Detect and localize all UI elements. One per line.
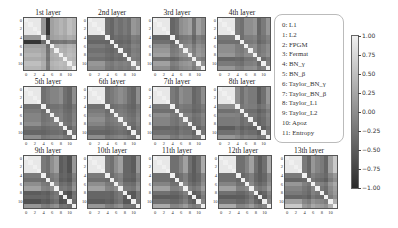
panel-title: 9th layer	[18, 147, 78, 155]
heatmap	[24, 87, 76, 139]
y-tick-label: 10	[82, 61, 86, 66]
colorbar-tick	[358, 188, 361, 189]
y-tick-label: 10	[18, 61, 22, 66]
heatmap-panel: 5th layer00224466881010	[18, 78, 78, 150]
colorbar-tick	[358, 169, 361, 170]
heatmap-panel: 12th layer00224466881010	[213, 147, 273, 219]
x-tick-label: 8	[186, 210, 194, 215]
panel-title: 5th layer	[18, 78, 78, 86]
legend-item: 2: FPGM	[282, 41, 308, 49]
y-tick-label: 10	[82, 130, 86, 135]
y-tick-label: 0	[147, 156, 151, 161]
legend-item: 6: Taylor_BN_γ	[282, 80, 326, 88]
x-tick-label: 0	[22, 210, 30, 215]
x-tick-label: 4	[301, 210, 309, 215]
y-tick-label: 4	[279, 173, 283, 178]
y-tick-label: 4	[82, 35, 86, 40]
heatmap	[88, 156, 140, 208]
x-tick-label: 2	[95, 210, 103, 215]
legend-item: 3: Fermat	[282, 50, 308, 58]
x-tick-label: 2	[226, 210, 234, 215]
heatmap-panel: 8th layer00224466881010	[212, 78, 272, 150]
y-tick-label: 6	[279, 182, 283, 187]
heatmap	[218, 87, 270, 139]
y-tick-label: 6	[212, 113, 216, 118]
colorbar-tick-label: 0.50	[362, 71, 375, 77]
y-tick-label: 2	[212, 95, 216, 100]
y-tick-label: 0	[18, 87, 22, 92]
legend-box: 0: L11: L22: FPGM3: Fermat4: BN_γ5: BN_β…	[274, 14, 344, 143]
y-tick-label: 4	[147, 35, 151, 40]
y-tick-label: 0	[212, 18, 216, 23]
y-tick-label: 10	[147, 61, 151, 66]
panel-title: 3rd layer	[147, 9, 207, 17]
colorbar-tick-label: −1.00	[362, 185, 380, 191]
colorbar-tick-label: 0.25	[362, 90, 375, 96]
legend-item: 9: Taylor_L2	[282, 109, 317, 117]
panel-title: 12th layer	[213, 147, 273, 155]
x-tick-label: 10	[66, 210, 74, 215]
y-tick-label: 8	[279, 190, 283, 195]
y-tick-label: 2	[18, 95, 22, 100]
panel-title: 6th layer	[82, 78, 142, 86]
y-tick-label: 10	[213, 199, 217, 204]
x-tick-label: 8	[121, 210, 129, 215]
y-tick-label: 2	[279, 164, 283, 169]
y-tick-label: 0	[147, 18, 151, 23]
x-tick-label: 10	[66, 141, 74, 146]
x-tick-label: 0	[217, 210, 225, 215]
y-tick-label: 2	[82, 164, 86, 169]
heatmap-panel: 6th layer00224466881010	[82, 78, 142, 150]
y-tick-label: 4	[212, 35, 216, 40]
legend-item: 5: BN_β	[282, 70, 305, 78]
x-tick-label: 4	[169, 210, 177, 215]
y-tick-label: 4	[213, 173, 217, 178]
y-tick-label: 0	[147, 87, 151, 92]
y-tick-label: 4	[18, 173, 22, 178]
heatmap	[88, 18, 140, 70]
heatmap	[24, 156, 76, 208]
y-tick-label: 6	[147, 113, 151, 118]
y-tick-label: 6	[18, 44, 22, 49]
heatmap-panel: 9th layer00224466881010	[18, 147, 78, 219]
colorbar-tick-label: −0.25	[362, 128, 380, 134]
y-tick-label: 6	[18, 182, 22, 187]
y-tick-label: 6	[147, 182, 151, 187]
x-tick-label: 4	[40, 210, 48, 215]
colorbar-tick-label: 1.00	[362, 33, 375, 39]
y-tick-label: 8	[147, 121, 151, 126]
legend-item: 1: L2	[282, 31, 297, 39]
x-tick-label: 8	[57, 210, 65, 215]
y-tick-label: 4	[18, 104, 22, 109]
x-tick-label: 0	[86, 210, 94, 215]
y-tick-label: 8	[147, 190, 151, 195]
x-tick-label: 6	[48, 210, 56, 215]
panel-title: 2nd layer	[82, 9, 142, 17]
heatmap-panel: 7th layer00224466881010	[147, 78, 207, 150]
y-tick-label: 2	[18, 26, 22, 31]
y-tick-label: 2	[18, 164, 22, 169]
y-tick-label: 10	[82, 199, 86, 204]
y-tick-label: 4	[18, 35, 22, 40]
x-tick-label: 10	[260, 72, 268, 77]
y-tick-label: 6	[82, 44, 86, 49]
heatmap-panel: 4th layer00224466881010	[212, 9, 272, 81]
y-tick-label: 4	[82, 173, 86, 178]
colorbar-tick	[358, 93, 361, 94]
panel-title: 4th layer	[212, 9, 272, 17]
x-tick-label: 0	[86, 141, 94, 146]
y-tick-label: 0	[212, 87, 216, 92]
y-tick-label: 8	[82, 190, 86, 195]
x-tick-label: 10	[327, 210, 335, 215]
x-tick-label: 6	[177, 210, 185, 215]
y-tick-label: 10	[212, 61, 216, 66]
x-tick-label: 0	[22, 72, 30, 77]
colorbar-tick	[358, 150, 361, 151]
y-tick-label: 6	[147, 44, 151, 49]
y-tick-label: 8	[18, 190, 22, 195]
x-tick-label: 0	[151, 141, 159, 146]
x-tick-label: 4	[235, 210, 243, 215]
x-tick-label: 8	[252, 210, 260, 215]
y-tick-label: 10	[18, 199, 22, 204]
legend-item: 4: BN_γ	[282, 60, 305, 68]
